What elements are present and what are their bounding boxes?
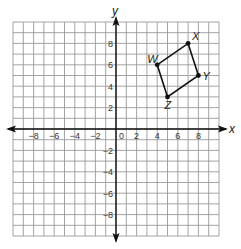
quadrilateral-wxyz: WXYZ [147, 30, 210, 111]
vertex-label-x: X [191, 30, 200, 42]
y-tick-label: 6 [108, 60, 113, 70]
x-tick-label: −6 [49, 131, 59, 141]
vertex-label-z: Z [164, 99, 173, 111]
x-tick-label: 8 [196, 131, 201, 141]
x-tick-label: 6 [175, 131, 180, 141]
vertex-point-y [196, 73, 201, 78]
axes [6, 16, 228, 243]
y-tick-label: −6 [103, 189, 113, 199]
x-tick-label: −4 [70, 131, 80, 141]
y-tick-label: 8 [108, 39, 113, 49]
x-axis-label: x [228, 122, 236, 136]
y-tick-label: 4 [108, 82, 113, 92]
vertex-point-x [186, 41, 191, 46]
y-tick-label: 2 [108, 103, 113, 113]
y-tick-label: −4 [103, 167, 113, 177]
coordinate-plane: x y 0 −8−6−4−22468 8642−2−4−6−8 WXYZ [0, 0, 241, 249]
vertex-label-y: Y [202, 70, 210, 82]
vertex-label-w: W [147, 53, 159, 65]
y-axis-label: y [111, 4, 119, 18]
origin-label: 0 [119, 131, 124, 141]
x-tick-label: −2 [90, 131, 100, 141]
y-tick-label: −2 [103, 146, 113, 156]
x-tick-label: 4 [155, 131, 160, 141]
y-tick-label: −8 [103, 210, 113, 220]
x-tick-label: −8 [28, 131, 38, 141]
x-tick-label: 2 [134, 131, 139, 141]
